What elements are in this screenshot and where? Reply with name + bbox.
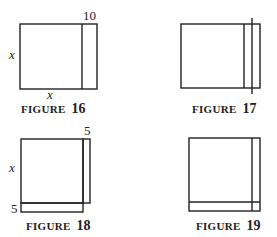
figure-18-square <box>21 139 83 203</box>
figure-16-strip-label: 10 <box>83 8 96 23</box>
figure-18: 5 x 5 FIGURE 18 <box>8 123 91 233</box>
figure-17-outer-rect <box>181 24 260 88</box>
figure-16-side-label: x <box>8 47 15 62</box>
figure-19-caption: FIGURE 19 <box>196 216 261 233</box>
figure-16-caption: FIGURE 16 <box>21 99 86 116</box>
figure-19-outer-rect <box>189 138 260 211</box>
figure-18-side-label: x <box>8 160 15 175</box>
figure-18-right-strip <box>83 139 90 203</box>
figure-17: FIGURE 17 <box>181 18 260 116</box>
figure-18-right-strip-label: 5 <box>84 123 91 138</box>
figure-16-bottom-label: x <box>46 87 53 102</box>
figure-18-bottom-strip <box>21 203 83 212</box>
figure-18-caption: FIGURE 18 <box>26 216 91 233</box>
figures-diagram: 10 x x FIGURE 16 FIGURE 17 5 x 5 FIGURE … <box>0 0 277 237</box>
figure-18-bottom-strip-label: 5 <box>11 201 18 216</box>
figure-16-outer-rect <box>20 24 97 89</box>
figure-17-caption: FIGURE 17 <box>192 99 257 116</box>
figure-19: FIGURE 19 <box>189 138 261 233</box>
figure-16: 10 x x FIGURE 16 <box>8 8 97 116</box>
